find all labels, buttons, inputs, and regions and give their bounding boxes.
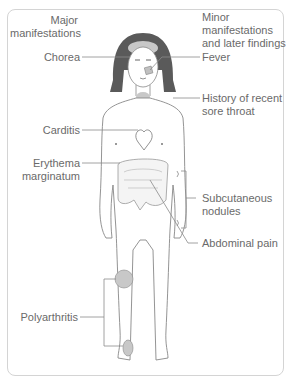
header-minor-line2: manifestations <box>202 24 286 37</box>
fever-highlight <box>144 66 153 75</box>
label-sore-throat: History of recent sore throat <box>202 92 282 118</box>
ankle-highlight <box>123 340 133 356</box>
label-sore-throat-line2: sore throat <box>202 105 282 118</box>
label-fever: Fever <box>202 51 230 64</box>
face <box>128 47 158 87</box>
header-major-line1: Major <box>10 14 78 27</box>
label-chorea: Chorea <box>20 51 80 64</box>
intestines <box>118 159 168 210</box>
label-subcutaneous-nodules: Subcutaneous nodules <box>202 192 272 218</box>
header-minor-line1: Minor <box>202 11 286 24</box>
header-minor-manifestations: Minor manifestations and later findings <box>202 11 286 50</box>
label-carditis: Carditis <box>20 124 80 137</box>
label-nodules-line2: nodules <box>202 205 272 218</box>
label-sore-throat-line1: History of recent <box>202 92 282 105</box>
header-minor-line3: and later findings <box>202 37 286 50</box>
knee-highlight <box>115 270 133 288</box>
label-abdominal-pain: Abdominal pain <box>202 237 278 250</box>
label-erythema-line2: marginatum <box>10 170 80 183</box>
label-polyarthritis: Polyarthritis <box>10 311 78 324</box>
header-major-manifestations: Major manifestations <box>10 14 78 40</box>
header-major-line2: manifestations <box>10 27 78 40</box>
label-nodules-line1: Subcutaneous <box>202 192 272 205</box>
label-erythema-marginatum: Erythema marginatum <box>10 157 80 183</box>
label-erythema-line1: Erythema <box>10 157 80 170</box>
